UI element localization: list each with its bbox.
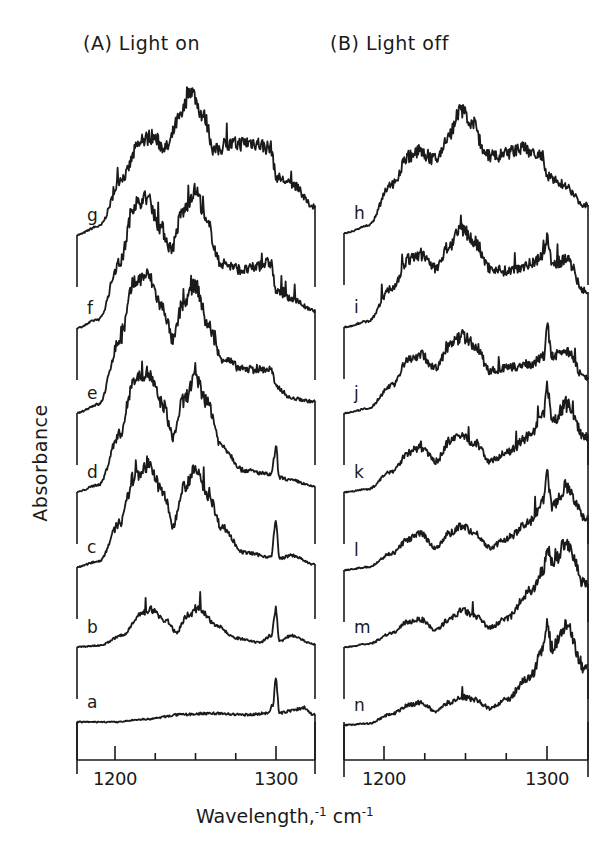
tick-label-a-1300: 1300 [254,768,298,789]
trace-label-b: b [87,617,98,637]
spectrum-trace-j [344,323,588,413]
trace-label-e: e [87,383,97,403]
trace-label-h: h [354,203,365,223]
trace-label-g: g [87,205,98,225]
trace-label-c: c [87,537,96,557]
spectrum-trace-h [344,105,588,234]
spectrum-trace-g [77,87,315,236]
tick-label-b-1300: 1300 [525,768,569,789]
trace-label-d: d [87,462,98,482]
trace-label-i: i [354,297,359,317]
tick-label-a-1200: 1200 [93,768,137,789]
spectrum-trace-f [77,184,315,329]
trace-label-j: j [354,383,359,403]
panel-a-title: (A) Light on [83,32,200,54]
trace-label-k: k [354,462,364,482]
trace-label-n: n [354,695,365,715]
panel-b-title: (B) Light off [330,32,449,54]
spectrum-trace-m [344,540,588,648]
spectrum-trace-a [77,678,315,722]
tick-label-b-1200: 1200 [362,768,406,789]
y-axis-label: Absorbance [29,393,51,533]
spectra-plot [0,0,616,857]
trace-label-a: a [87,692,97,712]
spectrum-trace-l [344,470,588,571]
spectrum-trace-b [77,592,315,647]
x-axis-label: Wavelength,-1 cm-1 [196,805,374,827]
spectrum-trace-n [344,619,588,726]
spectrum-trace-c [77,456,315,567]
spectrum-trace-i [344,215,588,327]
trace-label-l: l [354,540,359,560]
trace-label-m: m [354,617,371,637]
trace-label-f: f [87,298,93,318]
